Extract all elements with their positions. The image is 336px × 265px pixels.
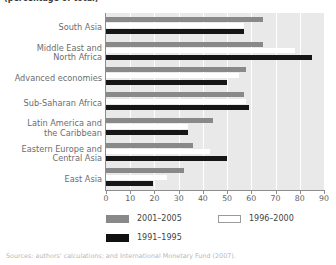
x-tick-label: 30: [174, 194, 184, 203]
legend-label: 2001–2005: [137, 214, 182, 223]
x-tick-label: 20: [149, 194, 159, 203]
bar-k: [106, 181, 153, 186]
legend-swatch: [218, 215, 241, 223]
category-group: Eastern Europe andCentral Asia: [0, 139, 336, 164]
category-group: Sub-Saharan Africa: [0, 89, 336, 114]
category-label: Eastern Europe andCentral Asia: [0, 145, 102, 164]
x-tick-label: 0: [104, 194, 109, 203]
legend-item[interactable]: 1996–2000: [218, 214, 294, 223]
legend-label: 1996–2000: [249, 214, 294, 223]
chart-subtitle: (percentage of total): [4, 0, 204, 4]
bar-g: [106, 17, 263, 22]
bar-w: [106, 99, 246, 104]
bar-g: [106, 42, 263, 47]
category-label: Sub-Saharan Africa: [0, 99, 102, 108]
bar-g: [106, 67, 246, 72]
category-group: Advanced economies: [0, 64, 336, 89]
bar-k: [106, 80, 227, 85]
category-label: South Asia: [0, 23, 102, 32]
x-tick-label: 90: [319, 194, 329, 203]
bar-w: [106, 149, 210, 154]
bar-k: [106, 105, 249, 110]
category-group: South Asia: [0, 13, 336, 38]
bar-k: [106, 55, 312, 60]
category-group: Middle East andNorth Africa: [0, 38, 336, 63]
category-group: East Asia: [0, 165, 336, 190]
x-tick-labels: 0102030405060708090: [0, 194, 336, 206]
x-tick-label: 60: [246, 194, 256, 203]
legend-swatch: [106, 234, 129, 242]
category-label: Latin America andthe Caribbean: [0, 119, 102, 138]
category-group: Latin America andthe Caribbean: [0, 114, 336, 139]
bar-g: [106, 118, 213, 123]
source-note: Sources: authors' calculations; and Inte…: [6, 252, 332, 260]
legend-item[interactable]: 1991–1995: [106, 233, 182, 242]
x-tick-label: 70: [271, 194, 281, 203]
bar-g: [106, 143, 193, 148]
category-label: East Asia: [0, 175, 102, 184]
bar-w: [106, 73, 239, 78]
x-tick-label: 80: [295, 194, 305, 203]
bar-g: [106, 168, 184, 173]
bar-w: [106, 48, 295, 53]
bar-k: [106, 156, 227, 161]
category-label: Advanced economies: [0, 74, 102, 83]
bar-k: [106, 130, 188, 135]
bar-w: [106, 124, 188, 129]
bar-k: [106, 29, 244, 34]
x-tick-label: 10: [125, 194, 135, 203]
x-tick-label: 50: [222, 194, 232, 203]
legend-swatch: [106, 215, 129, 223]
x-tick-label: 40: [198, 194, 208, 203]
legend-label: 1991–1995: [137, 233, 182, 242]
bar-w: [106, 175, 167, 180]
chart-figure: (percentage of total) South AsiaMiddle E…: [0, 0, 336, 265]
bar-g: [106, 92, 244, 97]
legend-item[interactable]: 2001–2005: [106, 214, 182, 223]
category-label: Middle East andNorth Africa: [0, 44, 102, 63]
bar-w: [106, 23, 244, 28]
